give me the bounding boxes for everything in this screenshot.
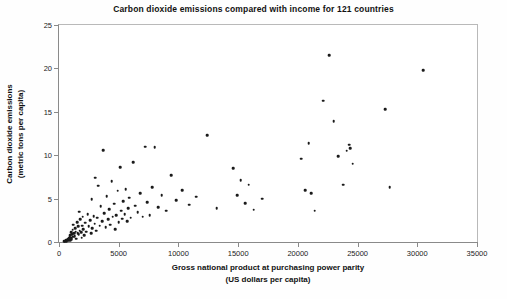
- y-axis-tick-label: 20: [44, 64, 52, 73]
- x-axis-tick-label: 25000: [347, 249, 368, 258]
- scatter-point: [116, 189, 119, 192]
- scatter-point: [81, 224, 84, 227]
- y-axis-tick: [54, 112, 59, 113]
- scatter-point: [206, 134, 209, 137]
- x-axis-tick-label: 5000: [110, 249, 127, 258]
- scatter-point: [300, 157, 303, 160]
- scatter-point: [84, 222, 87, 225]
- scatter-point: [88, 225, 91, 228]
- scatter-point: [239, 179, 242, 182]
- x-axis-tick-label: 15000: [228, 249, 249, 258]
- scatter-point: [104, 226, 107, 229]
- x-axis-tick-label: 35000: [467, 249, 488, 258]
- scatter-point: [348, 143, 351, 146]
- scatter-point: [310, 192, 313, 195]
- x-axis-tick: [298, 242, 299, 247]
- y-axis-tick-label: 5: [48, 194, 52, 203]
- scatter-point: [82, 216, 85, 219]
- scatter-point: [86, 213, 89, 216]
- plot-area: 0510152025050001000015000200002500030000…: [58, 24, 478, 243]
- scatter-point: [151, 186, 154, 189]
- scatter-point: [123, 213, 126, 216]
- y-axis-label-line2: (metric tons per capita): [15, 84, 26, 184]
- scatter-point: [141, 216, 144, 219]
- x-axis-tick-label: 30000: [407, 249, 428, 258]
- scatter-point: [195, 196, 198, 199]
- y-axis-tick-label: 10: [44, 151, 52, 160]
- y-axis-label: Carbon dioxide emissions (metric tons pe…: [0, 24, 30, 243]
- scatter-point: [94, 222, 97, 225]
- scatter-point: [165, 209, 168, 212]
- x-axis-label-line1: Gross national product at purchasing pow…: [58, 262, 478, 274]
- scatter-point: [98, 224, 101, 227]
- x-axis-tick: [119, 242, 120, 247]
- scatter-point: [127, 207, 130, 210]
- scatter-point: [125, 188, 128, 191]
- x-axis-tick: [477, 242, 478, 247]
- scatter-point: [90, 232, 93, 235]
- x-axis-label: Gross national product at purchasing pow…: [58, 262, 478, 285]
- scatter-point: [389, 186, 392, 189]
- scatter-point: [111, 216, 114, 219]
- scatter-point: [349, 147, 352, 150]
- scatter-point: [83, 234, 86, 237]
- x-axis-tick: [178, 242, 179, 247]
- scatter-point: [128, 196, 131, 199]
- scatter-point: [120, 209, 123, 212]
- scatter-point: [102, 149, 105, 152]
- y-axis-tick: [54, 199, 59, 200]
- scatter-point: [78, 210, 81, 213]
- scatter-point: [322, 99, 325, 102]
- chart-figure: Carbon dioxide emissions compared with i…: [0, 0, 507, 299]
- scatter-point: [422, 69, 425, 72]
- scatter-point: [337, 155, 340, 158]
- scatter-point: [79, 218, 82, 221]
- scatter-point: [236, 194, 239, 197]
- scatter-point: [91, 227, 94, 230]
- scatter-point: [157, 206, 160, 209]
- scatter-point: [351, 163, 354, 166]
- scatter-points: [59, 25, 477, 242]
- scatter-point: [96, 216, 99, 219]
- y-axis-tick: [54, 68, 59, 69]
- scatter-point: [95, 229, 98, 232]
- scatter-point: [80, 236, 83, 239]
- scatter-point: [146, 201, 149, 204]
- scatter-point: [384, 108, 387, 111]
- scatter-point: [170, 174, 173, 177]
- x-axis-tick: [358, 242, 359, 247]
- x-axis-tick-label: 0: [57, 249, 61, 258]
- scatter-point: [181, 189, 184, 192]
- scatter-point: [134, 204, 137, 207]
- scatter-point: [89, 219, 92, 222]
- scatter-point: [72, 223, 75, 226]
- scatter-point: [332, 120, 335, 123]
- scatter-point: [97, 184, 100, 187]
- scatter-point: [244, 202, 247, 205]
- scatter-point: [132, 161, 135, 164]
- scatter-point: [109, 223, 112, 226]
- scatter-point: [110, 180, 113, 183]
- scatter-point: [148, 214, 151, 217]
- scatter-point: [91, 198, 94, 201]
- scatter-point: [342, 183, 345, 186]
- x-axis-tick: [238, 242, 239, 247]
- scatter-point: [113, 203, 116, 206]
- scatter-point: [252, 209, 255, 212]
- scatter-point: [94, 176, 97, 179]
- scatter-point: [346, 150, 349, 153]
- scatter-point: [126, 220, 129, 223]
- scatter-point: [160, 194, 163, 197]
- scatter-point: [307, 142, 310, 145]
- scatter-point: [129, 216, 132, 219]
- scatter-point: [108, 208, 111, 211]
- chart-title: Carbon dioxide emissions compared with i…: [0, 4, 507, 14]
- x-axis-tick-label: 10000: [168, 249, 189, 258]
- scatter-point: [139, 192, 142, 195]
- y-axis-tick-label: 0: [48, 238, 52, 247]
- scatter-point: [144, 145, 147, 148]
- scatter-point: [215, 207, 218, 210]
- scatter-point: [105, 195, 108, 198]
- x-axis-tick-label: 20000: [287, 249, 308, 258]
- scatter-point: [153, 146, 156, 149]
